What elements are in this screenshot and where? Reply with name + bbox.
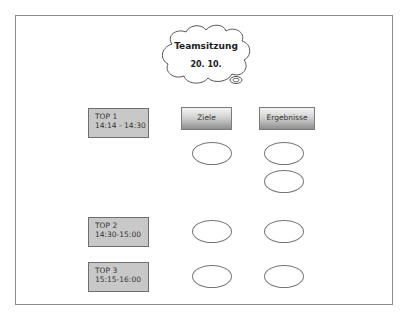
topic-box-1[interactable]: TOP 1 14:14 - 14:30	[88, 108, 149, 138]
ziele-oval-top1[interactable]	[192, 142, 232, 165]
cloud-date: 20. 10.	[158, 60, 254, 69]
ergebnisse-header-button[interactable]: Ergebnisse	[259, 107, 315, 130]
topic-box-2[interactable]: TOP 2 14:30-15:00	[88, 217, 149, 247]
ergebnisse-oval-top1-a[interactable]	[264, 142, 304, 165]
cloud-title: Teamsitzung	[158, 41, 254, 51]
cloud-shape-icon	[158, 22, 254, 90]
topic-box-3[interactable]: TOP 3 15:15-16:00	[88, 262, 149, 292]
ergebnisse-oval-top1-b[interactable]	[264, 170, 304, 193]
thought-cloud: Teamsitzung 20. 10.	[158, 22, 254, 90]
ergebnisse-oval-top2[interactable]	[264, 220, 304, 243]
topic-time: 15:15-16:00	[95, 275, 148, 284]
ziele-oval-top2[interactable]	[192, 220, 232, 243]
topic-time: 14:30-15:00	[95, 230, 148, 239]
topic-label: TOP 3	[95, 266, 148, 275]
ergebnisse-oval-top3[interactable]	[264, 265, 304, 288]
topic-time: 14:14 - 14:30	[95, 121, 148, 130]
ziele-oval-top3[interactable]	[192, 265, 232, 288]
topic-label: TOP 1	[95, 112, 148, 121]
topic-label: TOP 2	[95, 221, 148, 230]
ziele-header-button[interactable]: Ziele	[181, 107, 232, 130]
